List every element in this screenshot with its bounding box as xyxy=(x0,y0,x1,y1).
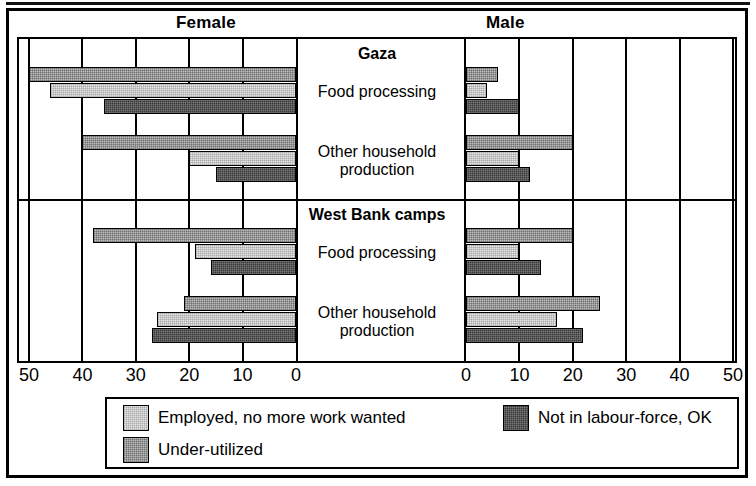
plot-inner: GazaFood processingOther householdproduc… xyxy=(19,39,735,361)
bar-male-employed xyxy=(466,83,487,98)
legend-label-employed: Employed, no more work wanted xyxy=(158,408,406,428)
bar-female-under xyxy=(29,67,296,82)
bar-female-under xyxy=(82,135,296,150)
bar-female-notlf xyxy=(104,99,296,114)
tick-female-30: 30 xyxy=(126,365,146,386)
bar-female-employed xyxy=(157,312,296,327)
bar-male-under xyxy=(466,296,600,311)
legend-label-notlf: Not in labour-force, OK xyxy=(538,408,712,428)
bar-male-under xyxy=(466,67,498,82)
tick-male-20: 20 xyxy=(563,365,583,386)
tick-male-30: 30 xyxy=(616,365,636,386)
bar-male-under xyxy=(466,228,573,243)
tick-female-0: 0 xyxy=(291,365,301,386)
panel-title-west-bank-camps: West Bank camps xyxy=(19,206,735,224)
axis-side-label-female: Female xyxy=(176,13,236,33)
tick-female-20: 20 xyxy=(179,365,199,386)
chart-outer-frame: Female Male GazaFood processingOther hou… xyxy=(6,8,748,478)
plot-area: GazaFood processingOther householdproduc… xyxy=(17,37,737,363)
chart-root: Female Male GazaFood processingOther hou… xyxy=(0,0,756,486)
bar-female-notlf xyxy=(211,260,296,275)
bar-male-notlf xyxy=(466,328,583,343)
sex-header-band: Female Male xyxy=(9,11,745,37)
chart-legend: Employed, no more work wanted Not in lab… xyxy=(105,397,739,469)
bar-male-employed xyxy=(466,151,519,166)
tick-male-0: 0 xyxy=(461,365,471,386)
bar-female-under xyxy=(184,296,296,311)
legend-item-notlf: Not in labour-force, OK xyxy=(503,405,712,431)
legend-swatch-under-icon xyxy=(123,437,149,463)
bar-male-notlf xyxy=(466,99,519,114)
legend-item-under: Under-utilized xyxy=(123,437,263,463)
tick-female-40: 40 xyxy=(72,365,92,386)
bar-female-employed xyxy=(189,151,296,166)
axis-side-label-male: Male xyxy=(486,13,525,33)
tick-male-40: 40 xyxy=(670,365,690,386)
bar-male-under xyxy=(466,135,573,150)
tick-male-10: 10 xyxy=(509,365,529,386)
bar-male-employed xyxy=(466,312,557,327)
bar-male-notlf xyxy=(466,260,541,275)
bar-female-employed xyxy=(195,244,296,259)
x-axis-tick-labels: 5040302010001020304050 xyxy=(17,365,737,391)
category-label: Other householdproduction xyxy=(19,304,735,340)
tick-male-50: 50 xyxy=(723,365,743,386)
tick-female-10: 10 xyxy=(233,365,253,386)
panel-title-gaza: Gaza xyxy=(19,45,735,63)
legend-swatch-employed-icon xyxy=(123,405,149,431)
category-label: Food processing xyxy=(19,244,735,262)
legend-item-employed: Employed, no more work wanted xyxy=(123,405,406,431)
page-top-rule xyxy=(6,2,750,5)
tick-female-50: 50 xyxy=(19,365,39,386)
bar-female-notlf xyxy=(152,328,296,343)
legend-label-under: Under-utilized xyxy=(158,440,263,460)
bar-male-employed xyxy=(466,244,519,259)
bar-male-notlf xyxy=(466,167,530,182)
bar-female-employed xyxy=(50,83,296,98)
legend-swatch-notlf-icon xyxy=(503,405,529,431)
bar-female-notlf xyxy=(216,167,296,182)
panel-separator xyxy=(19,199,735,201)
bar-female-under xyxy=(93,228,296,243)
